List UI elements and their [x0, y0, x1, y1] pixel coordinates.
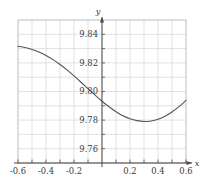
y-tick-label: 9.82 [79, 58, 98, 68]
y-tick-label: 9.78 [79, 115, 98, 125]
x-tick-label: 0.4 [151, 166, 164, 176]
y-tick-label: 9.76 [79, 144, 98, 154]
y-tick-label: 9.80 [79, 86, 98, 96]
y-axis-label: y [95, 6, 101, 16]
x-tick-label: -0.2 [66, 166, 82, 176]
x-tick-label: -0.4 [38, 166, 54, 176]
chart-figure: -0.6 -0.4 -0.2 0.2 0.4 0.6 9.76 9.78 9.8… [0, 0, 204, 187]
x-tick-label: 0.2 [123, 166, 136, 176]
x-tick-label: 0.6 [179, 166, 192, 176]
chart-canvas: -0.6 -0.4 -0.2 0.2 0.4 0.6 9.76 9.78 9.8… [0, 0, 204, 187]
x-tick-label: -0.6 [10, 166, 26, 176]
x-axis-label: x [195, 158, 200, 168]
y-tick-label: 9.84 [79, 29, 98, 39]
